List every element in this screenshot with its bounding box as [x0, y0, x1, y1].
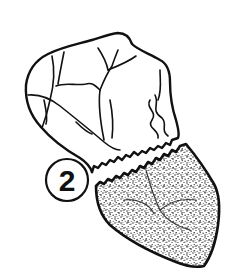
figure-label-2: 2	[46, 159, 88, 201]
heart-illustration: 2	[0, 0, 248, 278]
label-number: 2	[59, 164, 76, 197]
